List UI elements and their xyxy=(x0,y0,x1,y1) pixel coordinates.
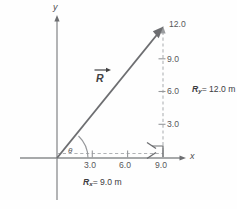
y-tick-label-3: 3.0 xyxy=(167,120,179,129)
vector-diagram: y x θ 3.0 6.0 9.0 3.0 6.0 9.0 12.0 R Rx=… xyxy=(0,0,237,209)
y-tick-label-12: 12.0 xyxy=(169,20,186,29)
angle-theta-label: θ xyxy=(68,147,72,155)
y-tick-label-6: 6.0 xyxy=(167,87,179,96)
y-component-dashed-line xyxy=(160,26,165,151)
x-tick-label-3: 3.0 xyxy=(84,161,96,170)
x-axis-arrowhead xyxy=(180,155,187,160)
y-axis-ticks xyxy=(159,59,166,125)
resultant-vector-name: R xyxy=(96,72,104,84)
angle-arc xyxy=(79,136,89,158)
x-component-label: Rx= 9.0 m xyxy=(83,178,122,187)
right-angle-marker xyxy=(147,143,163,159)
y-component-value: = 12.0 m xyxy=(202,84,236,94)
y-axis xyxy=(54,15,59,200)
resultant-vector-R xyxy=(57,27,164,159)
y-axis-arrowhead xyxy=(54,15,59,22)
resultant-vector-label-group: R xyxy=(94,66,102,78)
y-axis-label: y xyxy=(53,3,58,12)
x-axis-label: x xyxy=(190,152,195,161)
x-tick-label-6: 6.0 xyxy=(119,161,131,170)
x-tick-label-9: 9.0 xyxy=(155,161,167,170)
x-component-value: = 9.0 m xyxy=(93,177,122,187)
y-component-label: Ry= 12.0 m xyxy=(192,85,235,94)
y-tick-label-9: 9.0 xyxy=(167,55,179,64)
